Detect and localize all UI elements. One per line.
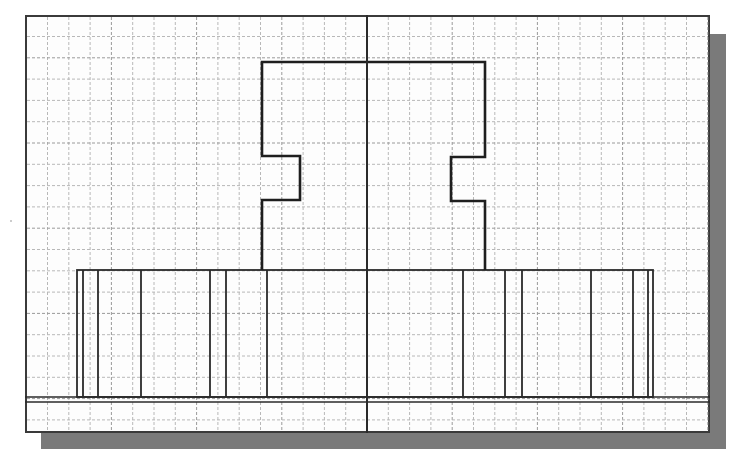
base-rectangle [77, 270, 653, 397]
print-artifact [10, 220, 12, 222]
base-block [77, 270, 653, 397]
technical-drawing [0, 0, 749, 466]
upper-stem-profile [262, 62, 485, 270]
